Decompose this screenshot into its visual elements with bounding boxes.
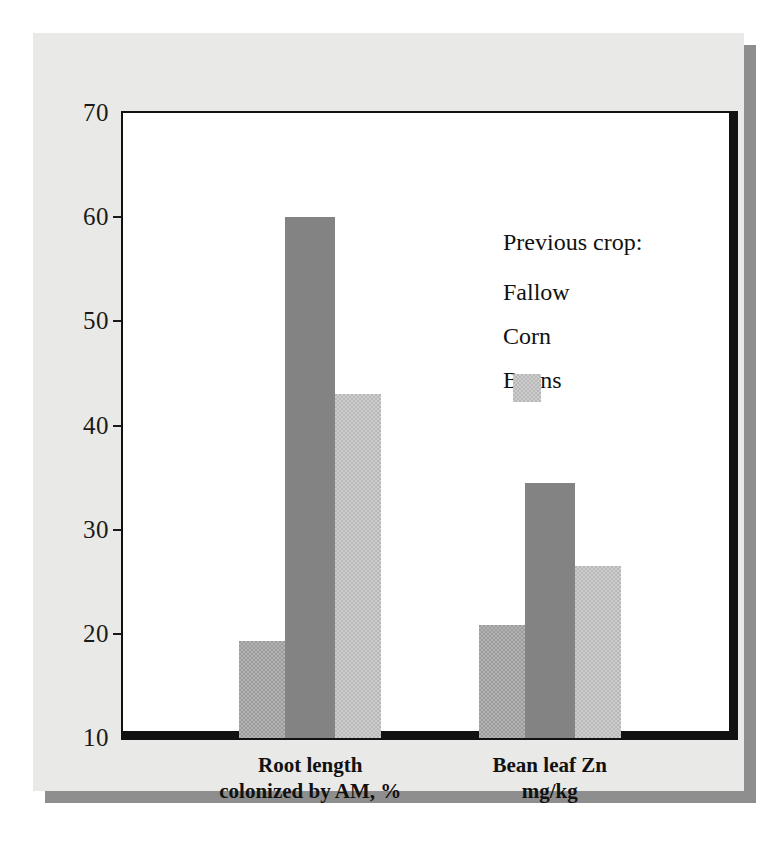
legend-swatch-beans: [513, 374, 541, 402]
legend-item-fallow[interactable]: Fallow: [503, 270, 642, 314]
y-axis-tick-label-30: 30: [83, 516, 109, 544]
y-axis-tick-label-70: 70: [83, 99, 109, 127]
legend-label-corn: Corn: [503, 323, 551, 350]
bar-fallow-group-2: [479, 625, 529, 738]
figure-panel: 10203040506070 Previous crop: Fallow Cor…: [33, 33, 744, 791]
y-axis: 10203040506070: [33, 33, 123, 793]
bar-beans-group-2: [571, 566, 621, 738]
chart-legend: Previous crop: Fallow Corn Beans: [503, 229, 642, 402]
x-axis-group-label-line2: mg/kg: [400, 778, 700, 804]
plot-area: [123, 113, 737, 738]
bar-corn-group-1: [285, 217, 335, 738]
y-axis-tick-label-60: 60: [83, 203, 109, 231]
y-axis-tick-label-50: 50: [83, 307, 109, 335]
bar-beans-group-1: [331, 394, 381, 738]
y-axis-tick-label-20: 20: [83, 620, 109, 648]
x-axis-group-label-line1: Bean leaf Zn: [400, 752, 700, 778]
legend-item-beans[interactable]: Beans: [503, 358, 642, 402]
legend-label-fallow: Fallow: [503, 279, 570, 306]
x-axis-group-label-bean-leaf-zn: Bean leaf Zn mg/kg: [400, 752, 700, 804]
legend-item-corn[interactable]: Corn: [503, 314, 642, 358]
legend-title: Previous crop:: [503, 229, 642, 256]
y-axis-tick-label-40: 40: [83, 412, 109, 440]
bar-corn-group-2: [525, 483, 575, 738]
y-axis-tick-label-10: 10: [83, 724, 109, 752]
bar-fallow-group-1: [239, 641, 289, 738]
